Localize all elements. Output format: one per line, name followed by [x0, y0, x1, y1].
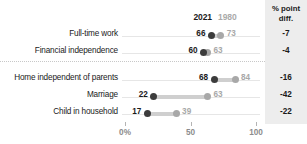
diff-column-header: % point diff. — [265, 4, 307, 23]
axis-tick-label: 0% — [105, 128, 145, 137]
diff-column-header-line1: % point — [265, 4, 307, 14]
legend-label-2021: 2021 — [182, 12, 212, 22]
data-point-1980 — [173, 110, 180, 117]
diff-value: -42 — [265, 90, 307, 99]
value-label-1980: 73 — [227, 29, 236, 38]
row-label: Financial independence — [0, 46, 118, 55]
row-guide-line — [122, 80, 260, 81]
group-divider — [0, 61, 265, 62]
axis-tick-label: 50 — [171, 128, 211, 137]
value-label-2021: 66 — [191, 29, 205, 38]
table-row: Financial independence6063-4 — [0, 45, 307, 61]
axis-tick-mark — [256, 122, 257, 126]
axis-tick-mark — [191, 122, 192, 126]
value-label-2021: 22 — [134, 90, 148, 99]
value-label-1980: 63 — [214, 46, 223, 55]
table-row: Full-time work6673-7 — [0, 28, 307, 44]
row-label: Child in household — [0, 107, 118, 116]
diff-column-header-line2: diff. — [265, 14, 307, 24]
diff-value: -22 — [265, 107, 307, 116]
value-label-1980: 63 — [214, 90, 223, 99]
row-connector — [154, 95, 208, 99]
dumbbell-chart: 2021 1980 % point diff. Full-time work66… — [0, 0, 307, 144]
value-label-1980: 84 — [241, 73, 250, 82]
row-label: Marriage — [0, 90, 118, 99]
value-label-2021: 60 — [184, 46, 198, 55]
legend-label-1980: 1980 — [218, 12, 248, 22]
table-row: Home independent of parents6884-16 — [0, 72, 307, 88]
value-label-2021: 68 — [194, 73, 208, 82]
data-point-2021 — [208, 32, 215, 39]
axis-tick-mark — [125, 122, 126, 126]
diff-value: -7 — [265, 29, 307, 38]
data-point-1980 — [204, 93, 211, 100]
row-label: Full-time work — [0, 29, 118, 38]
diff-value: -16 — [265, 73, 307, 82]
data-point-2021 — [211, 76, 218, 83]
axis-tick-label: 100 — [236, 128, 276, 137]
diff-value: -4 — [265, 46, 307, 55]
data-point-1980 — [217, 32, 224, 39]
value-label-1980: 39 — [182, 107, 191, 116]
row-connector — [147, 112, 176, 116]
row-label: Home independent of parents — [0, 73, 118, 82]
data-point-1980 — [232, 76, 239, 83]
table-row: Marriage2263-42 — [0, 89, 307, 105]
value-label-2021: 17 — [127, 107, 141, 116]
table-row: Child in household1739-22 — [0, 106, 307, 122]
data-point-2021 — [144, 110, 151, 117]
